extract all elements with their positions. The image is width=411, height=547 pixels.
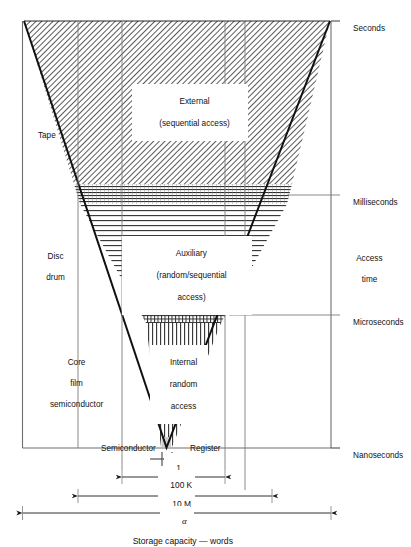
bottom-label-semiconductor-text: Semiconductor	[101, 444, 156, 453]
figure-caption-text: Storage capacity — words	[133, 536, 233, 546]
region-transition-upper	[74, 184, 292, 204]
region-label-internal: Internal random access	[150, 345, 208, 424]
left-label-semiconductor: semiconductor	[50, 400, 103, 409]
region-internal-line2: random	[170, 380, 198, 389]
left-label-drum: drum	[46, 273, 65, 282]
bottom-label-semiconductor: Semiconductor	[92, 433, 156, 465]
figure-caption: Storage capacity — words	[0, 526, 356, 547]
region-auxiliary-line2: (random/sequential	[157, 271, 227, 280]
left-label-tape: Tape	[29, 120, 56, 152]
axis-tick-milliseconds-label: Milliseconds	[353, 198, 398, 207]
left-label-disc: Disc	[48, 252, 64, 261]
axis-tick-microseconds-label: Microseconds	[353, 318, 404, 327]
axis-title-access-time: Access time	[336, 243, 394, 296]
axis-tick-nanoseconds-label: Nanoseconds	[353, 451, 403, 460]
region-internal-line1: Internal	[170, 358, 197, 367]
region-external-line1: External	[180, 97, 210, 106]
axis-tick-seconds: Seconds	[344, 15, 385, 42]
region-internal-line3: access	[171, 402, 196, 411]
left-label-core-film-semiconductor: Core film semiconductor	[24, 347, 120, 421]
left-label-disc-drum: Disc drum	[27, 241, 75, 294]
axis-tick-milliseconds: Milliseconds	[344, 189, 398, 216]
axis-title-line2: time	[362, 275, 377, 284]
region-external-line2: (sequential access)	[159, 119, 230, 128]
bottom-label-register: Register	[181, 433, 221, 465]
axis-title-line1: Access	[356, 254, 382, 263]
region-label-auxiliary: Auxiliary (random/sequential access)	[122, 236, 252, 315]
region-auxiliary-line1: Auxiliary	[176, 249, 207, 258]
left-label-film: film	[70, 379, 83, 388]
left-label-core: Core	[68, 358, 86, 367]
axis-tick-nanoseconds: Nanoseconds	[344, 442, 403, 469]
figure-root: External (sequential access) Auxiliary (…	[0, 0, 411, 547]
dimension-alpha-value: α	[182, 516, 187, 526]
axis-tick-seconds-label: Seconds	[353, 24, 385, 33]
bottom-label-register-text: Register	[190, 444, 221, 453]
region-label-external: External (sequential access)	[132, 84, 248, 141]
left-label-tape-text: Tape	[38, 131, 56, 140]
axis-tick-microseconds: Microseconds	[344, 309, 404, 336]
region-auxiliary-line3: access)	[177, 293, 205, 302]
